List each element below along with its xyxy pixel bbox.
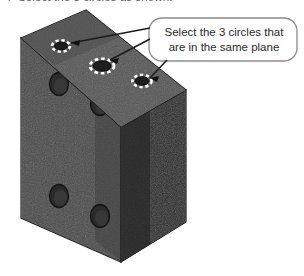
isometric-block-illustration <box>0 0 304 276</box>
front-hole-3[interactable] <box>50 185 69 208</box>
front-hole-4[interactable] <box>91 205 110 228</box>
callout-balloon <box>149 18 297 61</box>
